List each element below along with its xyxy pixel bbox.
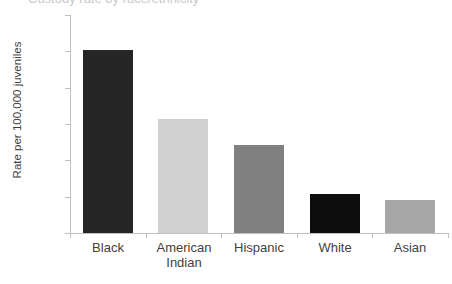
y-axis-tick — [65, 160, 70, 161]
y-axis-tick — [65, 51, 70, 52]
bar-chart: Custody rate by race/ethnicity Rate per … — [0, 0, 452, 284]
bar — [385, 200, 435, 233]
y-axis-tick — [65, 88, 70, 89]
x-axis-label-line: Hispanic — [221, 240, 297, 255]
bar — [83, 50, 133, 233]
x-axis-labels: BlackAmericanIndianHispanicWhiteAsian — [70, 240, 448, 284]
x-axis-tick — [221, 233, 222, 238]
x-axis-label-line: American — [146, 240, 222, 255]
y-axis-title: Rate per 100,000 juveniles — [11, 15, 23, 205]
x-axis-tick — [297, 233, 298, 238]
x-axis-tick — [70, 233, 71, 238]
x-axis-label-line: Black — [70, 240, 146, 255]
x-axis-label-line: Indian — [146, 255, 222, 270]
x-axis-line — [70, 233, 448, 234]
x-axis-label: AmericanIndian — [146, 240, 222, 270]
x-axis-label: Asian — [372, 240, 448, 255]
y-axis-tick — [65, 124, 70, 125]
bar — [158, 119, 208, 233]
y-axis-line — [70, 15, 71, 233]
y-axis-tick — [65, 197, 70, 198]
bar — [234, 145, 284, 233]
x-axis-tick — [372, 233, 373, 238]
x-axis-label: Black — [70, 240, 146, 255]
x-axis-label: White — [297, 240, 373, 255]
x-axis-tick — [146, 233, 147, 238]
y-axis-tick — [65, 15, 70, 16]
chart-title-cropped: Custody rate by race/ethnicity — [0, 0, 452, 7]
x-axis-label: Hispanic — [221, 240, 297, 255]
x-axis-tick — [448, 233, 449, 238]
x-axis-label-line: White — [297, 240, 373, 255]
plot-area: 020040060080010001200 — [70, 15, 448, 233]
chart-title-text: Custody rate by race/ethnicity — [28, 0, 199, 6]
x-axis-label-line: Asian — [372, 240, 448, 255]
bar — [310, 194, 360, 233]
